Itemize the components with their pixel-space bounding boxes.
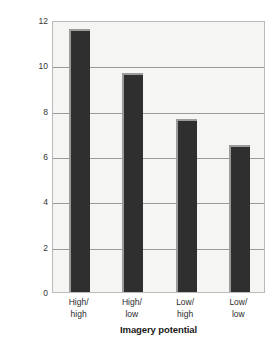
x-tick-label-line: High/: [109, 296, 155, 308]
x-tick-label-line: High/: [56, 296, 102, 308]
x-axis-tick-labels: High/highHigh/lowLow/highLow/low: [52, 296, 265, 326]
bar: [69, 29, 90, 292]
x-tick-label-line: Low/: [215, 296, 261, 308]
y-tick-label: 4: [26, 198, 48, 207]
x-tick-label-line: high: [56, 308, 102, 320]
x-tick-label-line: low: [215, 308, 261, 320]
y-tick-label: 6: [26, 153, 48, 162]
x-tick-label-line: low: [109, 308, 155, 320]
x-axis-title: Imagery potential: [52, 324, 265, 335]
y-tick-label: 10: [26, 62, 48, 71]
bar: [176, 119, 197, 292]
plot-area: [52, 21, 265, 293]
y-tick-label: 0: [26, 289, 48, 298]
x-tick-label: Low/high: [162, 296, 208, 320]
y-axis-tick-labels: 024681012: [26, 21, 48, 293]
y-tick-label: 8: [26, 107, 48, 116]
y-tick-label: 2: [26, 243, 48, 252]
y-tick-label: 12: [26, 17, 48, 26]
x-tick-label-line: Low/: [162, 296, 208, 308]
x-tick-label: High/low: [109, 296, 155, 320]
y-axis-title: Average number of pairs recalled: [5, 0, 21, 53]
bar: [229, 145, 250, 292]
bar-chart-figure: Average number of pairs recalled 0246810…: [0, 0, 275, 351]
bar: [122, 73, 143, 292]
x-tick-label: High/high: [56, 296, 102, 320]
x-tick-label: Low/low: [215, 296, 261, 320]
x-tick-label-line: high: [162, 308, 208, 320]
bars-group: [53, 22, 264, 292]
